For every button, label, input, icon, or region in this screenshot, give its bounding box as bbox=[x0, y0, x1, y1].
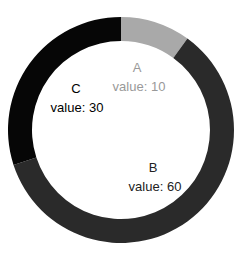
slice-b-value-label: value: 60 bbox=[129, 180, 182, 193]
slice-a-name-label: A bbox=[133, 61, 142, 74]
slice-a bbox=[121, 17, 187, 58]
slice-a-value-label: value: 10 bbox=[113, 80, 166, 93]
slice-c-value-label: value: 30 bbox=[51, 101, 104, 114]
slice-c-name-label: C bbox=[71, 82, 80, 95]
slice-b-name-label: B bbox=[149, 161, 158, 174]
slice-c bbox=[8, 17, 121, 165]
donut-chart bbox=[0, 0, 243, 256]
